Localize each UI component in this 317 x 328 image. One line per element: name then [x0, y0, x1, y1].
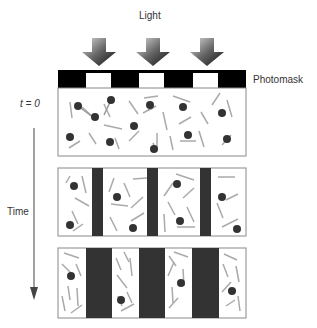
- time-arrowhead-icon: [30, 287, 38, 300]
- stage-panel-final: [58, 248, 246, 318]
- diagram-canvas: [0, 0, 317, 328]
- light-arrow-icon: [136, 38, 170, 66]
- stage-panel-intermediate: [58, 168, 246, 236]
- light-arrow-icon: [82, 38, 116, 66]
- stage-panel-initial: [58, 88, 246, 156]
- photomask: [58, 70, 246, 88]
- light-arrow-icon: [190, 38, 224, 66]
